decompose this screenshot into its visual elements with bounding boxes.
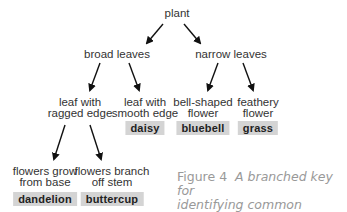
node-plant: plant <box>165 8 190 19</box>
node-branch-off-stem: flowers branch off stem <box>75 166 150 188</box>
caption-figure-number: Figure 4 <box>177 169 227 184</box>
node-grow-from-base: flowers grow from base <box>13 166 78 188</box>
node-broad-leaves: broad leaves <box>84 49 150 60</box>
result-bluebell: bluebell <box>176 121 229 135</box>
figure-caption: Figure 4 A branched key for identifying … <box>177 170 347 212</box>
result-buttercup: buttercup <box>81 192 144 206</box>
node-narrow-leaves: narrow leaves <box>195 49 267 60</box>
arrow-broad-ragged <box>90 63 100 90</box>
node-smooth-edge: leaf with smooth edge <box>112 97 179 119</box>
arrow-ragged-branch <box>90 125 101 159</box>
result-grass: grass <box>238 121 278 135</box>
result-dandelion: dandelion <box>13 192 77 206</box>
arrow-ragged-base <box>54 125 65 159</box>
arrow-plant-narrow <box>184 24 200 43</box>
node-bell-shaped: bell-shaped flower <box>173 97 232 119</box>
caption-text-line2: identifying common plants. <box>177 198 347 212</box>
arrow-plant-broad <box>147 24 163 43</box>
arrow-narrow-feathery <box>243 63 253 90</box>
arrow-broad-smooth <box>129 63 139 90</box>
node-base-line2: from base <box>13 177 78 188</box>
node-bell-line2: flower <box>173 108 232 119</box>
arrow-narrow-bell <box>208 63 218 90</box>
node-ragged-line2: ragged edge <box>48 108 113 119</box>
node-branch-line2: off stem <box>75 177 150 188</box>
node-ragged-edge: leaf with ragged edge <box>48 97 113 119</box>
result-daisy: daisy <box>125 121 164 135</box>
node-feathery: feathery flower <box>237 97 279 119</box>
node-smooth-line2: smooth edge <box>112 108 179 119</box>
caption-line1: Figure 4 A branched key for <box>177 170 347 198</box>
node-feathery-line2: flower <box>237 108 279 119</box>
